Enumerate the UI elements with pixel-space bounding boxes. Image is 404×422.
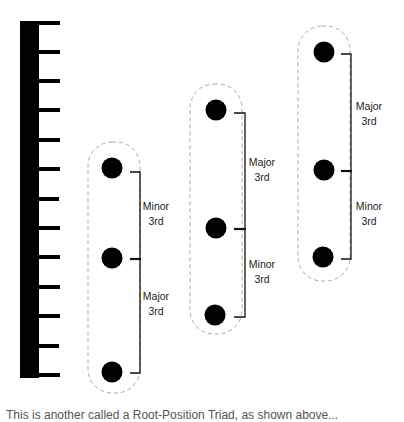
chord-box [190,84,242,334]
interval-label: Minor 3rd [344,199,394,229]
note-circle [313,247,334,268]
chord-3 [298,26,352,281]
note-circle [205,305,226,326]
note-circle [314,160,335,181]
chord-box [298,26,350,281]
interval-label: Major 3rd [237,155,287,185]
note-circle [206,218,227,239]
interval-label: Minor 3rd [131,199,181,229]
note-circle [314,42,335,63]
note-circle [102,158,123,179]
note-circle [102,362,123,383]
ruler [20,21,60,378]
interval-label: Minor 3rd [237,257,287,287]
interval-label: Major 3rd [344,99,394,129]
interval-label: Major 3rd [131,289,181,319]
caption-text: This is another called a Root-Position T… [6,408,338,422]
chord-2 [190,84,246,334]
note-circle [206,100,227,121]
note-circle [102,248,123,269]
chord-1 [88,142,141,393]
